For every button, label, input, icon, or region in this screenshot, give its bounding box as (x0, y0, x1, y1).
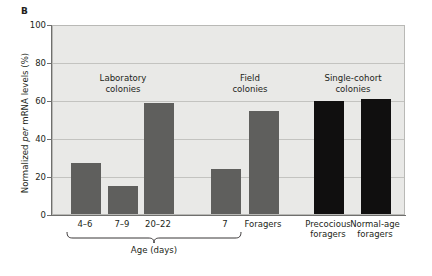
group-caption-line2: colonies (73, 84, 173, 95)
x-tick-label-line1: Normal-age (337, 219, 413, 229)
brace-icon (66, 232, 242, 244)
group-caption-line2: colonies (200, 84, 300, 95)
x-tick-label-line2: foragers (337, 229, 413, 239)
group-caption-line1: Field (200, 73, 300, 84)
bar-foragers[interactable] (249, 111, 279, 214)
y-axis-title: Normalized per mRNA levels (%) (20, 25, 30, 221)
y-tick-mark-20 (47, 177, 51, 178)
y-axis-title-prefix: Normalized (20, 142, 30, 193)
x-axis-group-label: Age (days) (66, 245, 242, 255)
bar-7[interactable] (211, 169, 241, 214)
bar-4-6[interactable] (71, 163, 101, 214)
y-tick-mark-80 (47, 63, 51, 64)
bar-precocious-foragers[interactable] (314, 101, 344, 214)
group-caption-line1: Single-cohort (303, 73, 403, 84)
group-caption-laboratory: Laboratory colonies (73, 73, 173, 94)
group-caption-single-cohort: Single-cohort colonies (303, 73, 403, 94)
bar-normal-age-foragers[interactable] (361, 99, 391, 214)
group-caption-line2: colonies (303, 84, 403, 95)
age-group-brace (66, 232, 242, 244)
y-axis-title-suffix: mRNA levels (%) (20, 53, 30, 128)
y-tick-mark-60 (47, 101, 51, 102)
x-axis-line (51, 215, 406, 216)
x-tick-label-20-22: 20–22 (128, 219, 188, 229)
bar-20-22[interactable] (144, 103, 174, 214)
x-tick-label-foragers: Foragers (233, 219, 293, 229)
figure-panel-b: B 100 80 60 40 20 0 Normalized per mRNA … (0, 0, 432, 276)
gridline-80 (53, 63, 404, 64)
gridline-40 (53, 139, 404, 140)
plot-area: Laboratory colonies Field colonies Singl… (52, 25, 405, 215)
y-tick-mark-100 (47, 25, 51, 26)
group-caption-line1: Laboratory (73, 73, 173, 84)
group-caption-field: Field colonies (200, 73, 300, 94)
y-tick-mark-40 (47, 139, 51, 140)
gridline-60 (53, 101, 404, 102)
y-axis-title-italic: per (20, 127, 30, 141)
bar-7-9[interactable] (108, 186, 138, 214)
x-tick-label-normal-age-foragers: Normal-age foragers (337, 219, 413, 239)
